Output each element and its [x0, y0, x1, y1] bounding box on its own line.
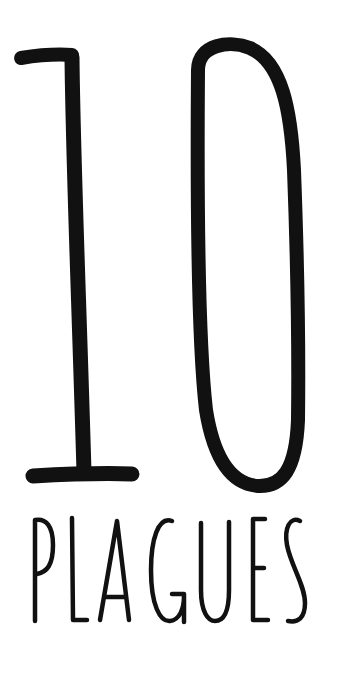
word-plagues — [0, 0, 345, 685]
letter-u — [201, 522, 229, 621]
letter-g — [151, 520, 184, 622]
poster: 10 PLAGUES — [0, 0, 345, 685]
letter-e — [253, 519, 268, 620]
letter-p — [35, 520, 53, 621]
letter-l — [72, 518, 87, 620]
letter-s — [286, 520, 305, 622]
letter-a — [100, 521, 129, 620]
